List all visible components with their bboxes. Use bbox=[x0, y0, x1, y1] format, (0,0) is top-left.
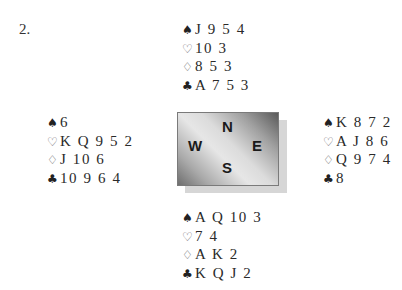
east-diamonds: Q 9 7 4 bbox=[336, 151, 392, 167]
south-diamonds-row: ♢A K 2 bbox=[182, 245, 262, 264]
west-hearts-row: ♡K Q 9 5 2 bbox=[47, 132, 134, 151]
heart-icon: ♡ bbox=[182, 40, 195, 59]
spade-icon: ♠ bbox=[182, 209, 195, 228]
east-clubs-row: ♣8 bbox=[323, 169, 392, 188]
west-clubs-row: ♣10 9 6 4 bbox=[47, 169, 134, 188]
west-diamonds-row: ♢J 10 6 bbox=[47, 150, 134, 169]
east-clubs: 8 bbox=[336, 170, 345, 186]
east-spades: K 8 7 2 bbox=[336, 114, 392, 130]
club-icon: ♣ bbox=[323, 170, 336, 189]
diamond-icon: ♢ bbox=[182, 58, 195, 77]
compass-south: S bbox=[222, 160, 232, 175]
heart-icon: ♡ bbox=[47, 133, 60, 152]
east-hearts-row: ♡A J 8 6 bbox=[323, 132, 392, 151]
club-icon: ♣ bbox=[182, 77, 195, 96]
compass-north: N bbox=[222, 119, 233, 134]
north-clubs: A 7 5 3 bbox=[195, 77, 250, 93]
south-hearts-row: ♡7 4 bbox=[182, 227, 262, 246]
west-diamonds: J 10 6 bbox=[60, 151, 105, 167]
compass-west: W bbox=[188, 138, 202, 153]
north-diamonds: 8 5 3 bbox=[195, 58, 233, 74]
east-hearts: A J 8 6 bbox=[336, 133, 389, 149]
hand-north: ♠J 9 5 4 ♡10 3 ♢8 5 3 ♣A 7 5 3 bbox=[182, 20, 250, 95]
hand-south: ♠A Q 10 3 ♡7 4 ♢A K 2 ♣K Q J 2 bbox=[182, 208, 262, 283]
north-spades-row: ♠J 9 5 4 bbox=[182, 20, 250, 39]
east-diamonds-row: ♢Q 9 7 4 bbox=[323, 150, 392, 169]
south-spades-row: ♠A Q 10 3 bbox=[182, 208, 262, 227]
south-clubs: K Q J 2 bbox=[195, 265, 252, 281]
west-spades: 6 bbox=[60, 114, 69, 130]
west-clubs: 10 9 6 4 bbox=[60, 170, 122, 186]
diamond-icon: ♢ bbox=[323, 151, 336, 170]
compass-east: E bbox=[252, 138, 262, 153]
club-icon: ♣ bbox=[47, 170, 60, 189]
diamond-icon: ♢ bbox=[182, 246, 195, 265]
spade-icon: ♠ bbox=[47, 114, 60, 133]
west-hearts: K Q 9 5 2 bbox=[60, 133, 134, 149]
south-spades: A Q 10 3 bbox=[195, 209, 262, 225]
north-spades: J 9 5 4 bbox=[195, 21, 246, 37]
east-spades-row: ♠K 8 7 2 bbox=[323, 113, 392, 132]
club-icon: ♣ bbox=[182, 265, 195, 284]
problem-number: 2. bbox=[19, 20, 30, 38]
north-hearts-row: ♡10 3 bbox=[182, 39, 250, 58]
hand-west: ♠6 ♡K Q 9 5 2 ♢J 10 6 ♣10 9 6 4 bbox=[47, 113, 134, 188]
heart-icon: ♡ bbox=[323, 133, 336, 152]
compass-box: N W E S bbox=[177, 112, 279, 186]
spade-icon: ♠ bbox=[182, 21, 195, 40]
heart-icon: ♡ bbox=[182, 228, 195, 247]
south-diamonds: A K 2 bbox=[195, 246, 239, 262]
south-clubs-row: ♣K Q J 2 bbox=[182, 264, 262, 283]
west-spades-row: ♠6 bbox=[47, 113, 134, 132]
north-clubs-row: ♣A 7 5 3 bbox=[182, 76, 250, 95]
south-hearts: 7 4 bbox=[195, 228, 219, 244]
hand-east: ♠K 8 7 2 ♡A J 8 6 ♢Q 9 7 4 ♣8 bbox=[323, 113, 392, 188]
north-diamonds-row: ♢8 5 3 bbox=[182, 57, 250, 76]
diamond-icon: ♢ bbox=[47, 151, 60, 170]
north-hearts: 10 3 bbox=[195, 40, 228, 56]
spade-icon: ♠ bbox=[323, 114, 336, 133]
